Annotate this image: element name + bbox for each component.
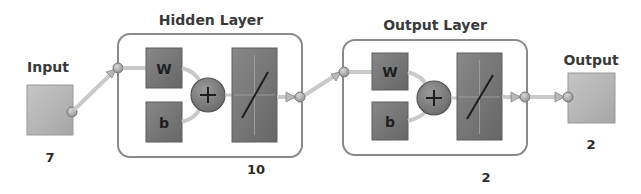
hidden-layer-title: Hidden Layer <box>159 12 263 28</box>
input-size: 7 <box>45 150 54 165</box>
output-layer-input-node <box>339 67 349 77</box>
connector-layer-output <box>530 92 564 102</box>
output-layer-size: 2 <box>481 170 490 185</box>
output-block <box>563 73 615 123</box>
network-diagram: W b W b <box>0 0 641 194</box>
connector-input-hidden <box>74 69 116 110</box>
output-layer-output-node <box>520 92 530 102</box>
hidden-input-node <box>113 63 123 73</box>
output-label: Output <box>563 52 618 68</box>
arrowhead-icon <box>511 92 520 102</box>
hidden-layer: W b <box>113 34 305 157</box>
input-block <box>27 85 77 135</box>
arrowhead-icon <box>286 92 295 102</box>
input-label: Input <box>27 59 69 75</box>
output-size: 2 <box>586 137 595 152</box>
output-layer-title: Output Layer <box>383 17 487 33</box>
connector-hidden-output <box>305 72 341 95</box>
output-layer: W b <box>339 40 530 155</box>
hidden-output-node <box>295 92 305 102</box>
output-port-node <box>563 92 573 102</box>
hidden-layer-size: 10 <box>247 162 265 177</box>
output-bias-label: b <box>385 114 395 130</box>
hidden-weight-label: W <box>156 61 171 77</box>
output-box <box>568 73 615 123</box>
output-weight-label: W <box>382 64 397 80</box>
input-box <box>27 85 73 135</box>
hidden-bias-label: b <box>159 115 169 131</box>
